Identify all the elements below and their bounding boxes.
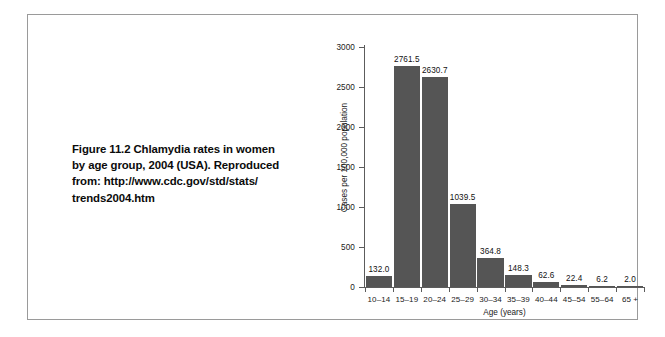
bar (422, 77, 448, 287)
caption-line-3: from: http://www.cdc.gov/std/stats/ (72, 173, 304, 189)
bar (450, 204, 476, 287)
x-tick (365, 287, 366, 292)
x-tick (644, 287, 645, 292)
bar (366, 276, 392, 287)
bar (617, 286, 643, 287)
x-tick (449, 287, 450, 292)
caption-line-1: Figure 11.2 Chlamydia rates in women (72, 141, 304, 157)
bar-value-label: 132.0 (359, 265, 399, 274)
x-tick (393, 287, 394, 292)
bar-value-label: 364.8 (471, 247, 511, 256)
x-tick (588, 287, 589, 292)
bar-value-label: 1039.5 (443, 193, 483, 202)
figure-page: Figure 11.2 Chlamydia rates in women by … (0, 0, 665, 337)
bar-chart: 050010001500200025003000 10–1415–1920–24… (318, 35, 658, 325)
x-tick (421, 287, 422, 292)
bar (394, 66, 420, 287)
x-tick (532, 287, 533, 292)
x-tick (477, 287, 478, 292)
y-tick-2500 (359, 87, 364, 88)
bar-value-label: 2761.5 (387, 55, 427, 64)
y-tick-1000 (359, 207, 364, 208)
y-tick-label-500: 500 (321, 243, 355, 252)
bar-value-label: 2630.7 (415, 66, 455, 75)
y-tick-2000 (359, 127, 364, 128)
x-tick-label: 65 + (611, 295, 649, 304)
x-tick (616, 287, 617, 292)
figure-caption: Figure 11.2 Chlamydia rates in women by … (72, 141, 304, 206)
y-tick-3000 (359, 47, 364, 48)
caption-line-4: trends2004.htm (72, 190, 304, 206)
y-tick-label-1500: 1500 (321, 163, 355, 172)
bar-value-label: 2.0 (610, 275, 650, 284)
y-tick-label-2500: 2500 (321, 83, 355, 92)
bar (589, 286, 615, 287)
caption-line-2: by age group, 2004 (USA). Reproduced (72, 157, 304, 173)
y-tick-label-1000: 1000 (321, 203, 355, 212)
y-tick-0 (359, 287, 364, 288)
y-tick-1500 (359, 167, 364, 168)
x-tick (505, 287, 506, 292)
y-tick-label-2000: 2000 (321, 123, 355, 132)
y-tick-500 (359, 247, 364, 248)
y-axis-title: Cases per 100,000 population (340, 78, 349, 238)
y-tick-label-3000: 3000 (321, 43, 355, 52)
figure-frame: Figure 11.2 Chlamydia rates in women by … (27, 14, 638, 320)
y-tick-label-0: 0 (321, 283, 355, 292)
bar (561, 285, 587, 287)
x-axis-title: Age (years) (364, 308, 645, 317)
x-tick (560, 287, 561, 292)
